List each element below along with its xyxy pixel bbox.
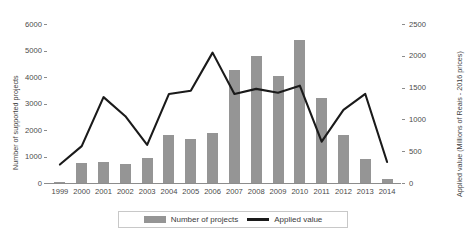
y-right-tick-mark [402, 56, 405, 57]
legend-item-number-of-projects: Number of projects [144, 215, 239, 224]
y-left-tick-label: 5000 [12, 46, 42, 55]
y-left-tick-label: 1000 [12, 152, 42, 161]
y-axis-right-title: Applied value (Millions of Reais - 2016 … [455, 51, 464, 197]
chart-legend: Number of projects Applied value [118, 211, 348, 228]
legend-label-number-of-projects: Number of projects [171, 215, 239, 224]
bar [185, 139, 196, 183]
bar [142, 158, 153, 183]
chart-container: Number of supported projects Applied val… [0, 0, 466, 236]
bar [207, 133, 218, 183]
y-left-tick-mark [44, 51, 47, 52]
y-right-tick-label: 0 [409, 179, 439, 188]
y-left-tick-label: 2000 [12, 126, 42, 135]
bar [54, 182, 65, 183]
bar-swatch-icon [144, 216, 166, 223]
y-left-tick-label: 4000 [12, 73, 42, 82]
y-right-tick-label: 2000 [409, 51, 439, 60]
x-axis-line [46, 183, 401, 184]
y-left-tick-mark [44, 24, 47, 25]
y-left-tick-label: 3000 [12, 99, 42, 108]
bar [163, 135, 174, 183]
y-left-tick-mark [44, 157, 47, 158]
y-right-tick-label: 1000 [409, 115, 439, 124]
y-right-tick-mark [402, 88, 405, 89]
bar [229, 70, 240, 183]
y-right-tick-label: 2500 [409, 20, 439, 29]
line-swatch-icon [247, 218, 269, 221]
y-left-tick-label: 6000 [12, 20, 42, 29]
bar [382, 179, 393, 183]
bar [273, 76, 284, 183]
plot-area [49, 24, 398, 183]
y-left-tick-mark [44, 104, 47, 105]
y-right-tick-mark [402, 24, 405, 25]
y-right-tick-mark [402, 183, 405, 184]
bar [98, 162, 109, 183]
y-right-tick-label: 500 [409, 147, 439, 156]
bar [360, 159, 371, 183]
legend-item-applied-value: Applied value [247, 215, 322, 224]
bar [251, 56, 262, 183]
y-right-tick-label: 1500 [409, 83, 439, 92]
y-right-tick-mark [402, 119, 405, 120]
bar [316, 98, 327, 183]
bar [76, 163, 87, 183]
y-left-tick-mark [44, 77, 47, 78]
bar [294, 40, 305, 183]
bar [120, 164, 131, 183]
legend-label-applied-value: Applied value [274, 215, 322, 224]
y-right-tick-mark [402, 151, 405, 152]
y-left-tick-label: 0 [12, 179, 42, 188]
x-axis-tick-label: 2014 [374, 187, 400, 196]
y-left-tick-mark [44, 130, 47, 131]
bar [338, 135, 349, 183]
